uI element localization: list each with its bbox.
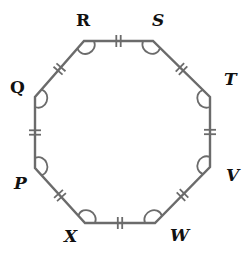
vertex-label-p: P <box>13 173 28 193</box>
vertex-label-w: W <box>170 225 191 245</box>
vertex-label-x: X <box>63 226 78 246</box>
vertex-label-v: V <box>226 165 241 185</box>
vertex-label-s: S <box>152 10 164 30</box>
vertex-label-q: Q <box>10 77 25 97</box>
vertex-label-r: R <box>76 10 91 30</box>
vertex-labels: R S T V W X P Q <box>10 10 241 246</box>
congruent-side-marks <box>29 35 216 229</box>
octagon-diagram: R S T V W X P Q <box>0 0 250 254</box>
vertex-label-t: T <box>224 69 238 89</box>
